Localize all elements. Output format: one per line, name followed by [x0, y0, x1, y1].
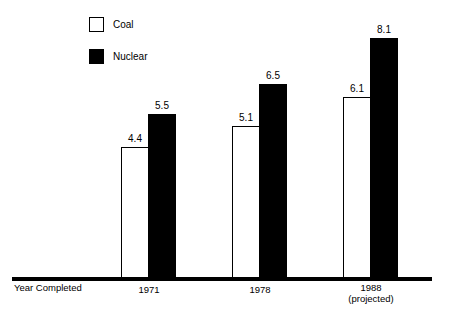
bar-value-coal-1978: 5.1	[229, 112, 263, 123]
bar-value-nuclear-1988: 8.1	[367, 24, 401, 35]
axis-baseline	[12, 277, 432, 281]
bar-nuclear-1978	[259, 84, 287, 277]
bar-coal-1988	[343, 97, 371, 277]
bar-value-nuclear-1971: 5.5	[145, 100, 179, 111]
bar-nuclear-1988	[370, 38, 398, 277]
axis-title-year-completed: Year Completed	[14, 282, 82, 293]
plot-area: 4.4 5.5 5.1 6.5 6.1 8.1 Year Completed 1…	[0, 0, 450, 313]
bar-nuclear-1971	[148, 114, 176, 277]
category-label-1988-projected: (projected)	[321, 293, 421, 304]
bar-value-coal-1988: 6.1	[340, 83, 374, 94]
bar-value-coal-1971: 4.4	[118, 133, 152, 144]
bar-chart: Coal Nuclear 4.4 5.5 5.1 6.5 6.1 8.1 Yea…	[0, 0, 450, 313]
category-label-1988: 1988	[321, 282, 421, 293]
bar-coal-1978	[232, 126, 260, 277]
bar-coal-1971	[121, 147, 149, 277]
category-label-1978: 1978	[210, 284, 310, 295]
category-label-1971: 1971	[99, 284, 199, 295]
bar-value-nuclear-1978: 6.5	[256, 70, 290, 81]
